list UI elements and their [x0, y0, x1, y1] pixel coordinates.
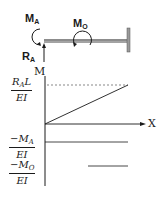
fixed-wall-support: [127, 28, 130, 52]
beam: [44, 40, 128, 42]
m-axis-label: M: [34, 66, 45, 77]
reaction-a-arrow-icon: [42, 43, 46, 62]
moment-a-label: MA: [25, 13, 39, 25]
ral-over-ei-label: RAL EI: [11, 76, 32, 103]
x-axis: [45, 122, 146, 126]
minus-ma-over-ei-label: −MA EI: [9, 133, 35, 160]
ral-linear-line: [45, 85, 128, 124]
x-axis-label: X: [148, 118, 156, 129]
minus-mo-over-ei-label: −MO EI: [9, 159, 35, 186]
moment-o-arrow-icon: [73, 31, 91, 47]
reaction-a-label: RA: [22, 51, 35, 63]
moment-o-label: MO: [73, 18, 88, 30]
moment-a-arrow-icon: [32, 29, 41, 46]
